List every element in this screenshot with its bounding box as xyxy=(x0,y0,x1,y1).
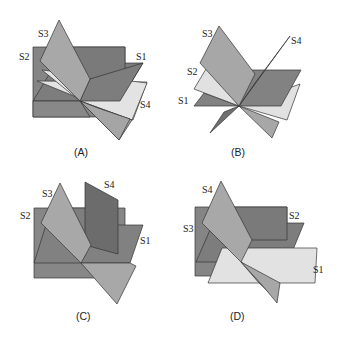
label-s4-b: S4 xyxy=(291,35,302,46)
label-s1-a: S1 xyxy=(136,51,147,62)
label-s3-c: S3 xyxy=(42,188,53,199)
label-s4-c: S4 xyxy=(104,179,115,190)
panel-b: S1 S2 S3 S4 (B) xyxy=(178,26,302,158)
caption-a: (A) xyxy=(74,146,88,158)
panel-c: S1 S2 S3 S4 (C) xyxy=(20,179,151,322)
diagram-canvas: S1 S2 S3 S4 (A) S1 S2 S3 S4 (B) xyxy=(0,0,340,342)
label-s3-a: S3 xyxy=(38,28,49,39)
label-s2-a: S2 xyxy=(19,51,30,62)
plane-s4-b-lower xyxy=(210,106,239,133)
plane-s3-c-lower xyxy=(81,263,136,304)
label-s3-d: S3 xyxy=(183,223,194,234)
label-s1-b: S1 xyxy=(178,95,189,106)
caption-b: (B) xyxy=(231,146,245,158)
label-s2-b: S2 xyxy=(187,66,198,77)
label-s1-d: S1 xyxy=(313,264,324,275)
label-s2-d: S2 xyxy=(289,210,300,221)
label-s2-c: S2 xyxy=(20,210,31,221)
panel-d: S1 S2 S3 S4 (D) xyxy=(183,181,324,322)
label-s1-c: S1 xyxy=(140,235,151,246)
label-s3-b: S3 xyxy=(202,28,213,39)
label-s4-d: S4 xyxy=(202,184,213,195)
plane-s2-a-left xyxy=(33,101,90,117)
panel-a: S1 S2 S3 S4 (A) xyxy=(19,20,151,158)
label-s4-a: S4 xyxy=(140,99,151,110)
caption-c: (C) xyxy=(76,310,91,322)
caption-d: (D) xyxy=(230,310,245,322)
